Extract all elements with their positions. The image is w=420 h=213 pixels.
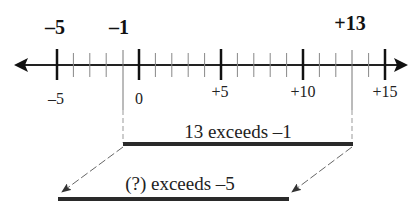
shift-arrow-right — [292, 147, 352, 192]
label-minus5-bold: –5 — [44, 16, 65, 38]
label-plus13-bold: +13 — [334, 12, 365, 34]
label-13-exceeds-minus1: 13 exceeds –1 — [184, 121, 292, 142]
number-line-diagram: –5 –1 +13 –5 0 +5 +10 +15 13 exceeds –1 … — [0, 0, 420, 213]
tick-label-plus10: +10 — [290, 83, 315, 100]
label-minus1-bold: –1 — [108, 16, 129, 38]
tick-label-minus5: –5 — [47, 90, 64, 107]
label-unknown-exceeds-minus5: (?) exceeds –5 — [125, 173, 235, 195]
shift-arrow-left — [62, 147, 123, 192]
tick-label-0: 0 — [135, 90, 143, 107]
tick-label-plus5: +5 — [211, 83, 228, 100]
tick-label-plus15: +15 — [372, 83, 397, 100]
